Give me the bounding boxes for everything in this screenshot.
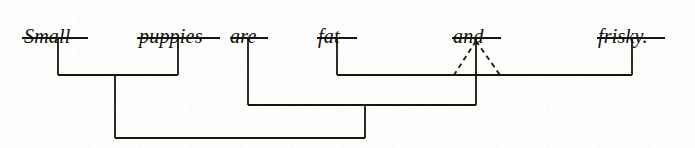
word-label-are: are — [230, 26, 257, 46]
word-label-fat: fat — [318, 26, 340, 46]
tree-line-layer — [0, 0, 695, 148]
word-stem-group — [58, 38, 632, 105]
ic-tree-diagram: Smallpuppiesarefatandfrisky. — [0, 0, 695, 148]
word-label-frisky: frisky. — [598, 26, 648, 46]
word-label-small: Small — [24, 26, 71, 46]
word-label-puppies: puppies — [139, 26, 203, 46]
word-label-and: and — [453, 26, 484, 46]
bracket-group — [58, 75, 632, 138]
